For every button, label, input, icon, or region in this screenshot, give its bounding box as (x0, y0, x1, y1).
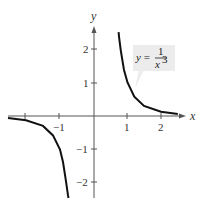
x-tick-label: 1 (124, 121, 130, 133)
y-tick-label: 1 (83, 77, 89, 89)
x-tick-label: −1 (53, 121, 65, 133)
svg-text:y =: y = (135, 51, 150, 63)
x-axis-arrow-icon (179, 114, 186, 119)
curve-right-branch (119, 32, 178, 114)
y-axis-arrow-icon (92, 26, 97, 33)
chart-canvas: x −1 1 2 y 2 1 −1 −2 y = 1 x 3 (0, 0, 202, 210)
x-axis-label: x (189, 109, 196, 123)
equation-label: y = 1 x 3 (133, 45, 175, 88)
y-axis: y 2 1 −1 −2 (76, 9, 97, 198)
svg-text:3: 3 (162, 53, 168, 65)
y-tick-label: −1 (76, 143, 88, 155)
svg-text:x: x (154, 58, 160, 70)
y-tick-label: −2 (76, 176, 88, 188)
y-axis-label: y (90, 9, 97, 23)
y-tick-label: 2 (83, 43, 89, 55)
x-tick-label: 2 (158, 121, 164, 133)
